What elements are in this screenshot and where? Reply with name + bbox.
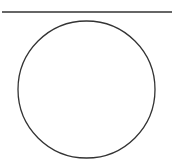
diagram-canvas bbox=[0, 0, 176, 168]
circle-shape bbox=[18, 21, 155, 158]
